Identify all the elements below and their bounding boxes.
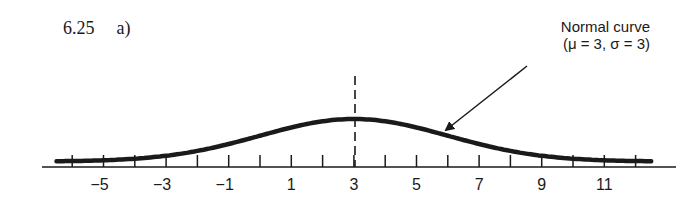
annotation-arrow — [446, 66, 527, 130]
x-tick-label: 1 — [287, 176, 296, 193]
x-tick-label: 9 — [537, 176, 546, 193]
x-tick-label: 11 — [596, 176, 613, 193]
x-tick-label: −1 — [216, 176, 234, 193]
normal-curve — [57, 119, 652, 161]
normal-curve-chart: −5−3−11357911 — [0, 0, 684, 217]
x-tick-label: 7 — [475, 176, 484, 193]
x-tick-label: −5 — [90, 176, 108, 193]
x-tick-label: 5 — [412, 176, 421, 193]
x-axis-tick-labels: −5−3−11357911 — [90, 176, 612, 193]
x-tick-label: −3 — [153, 176, 171, 193]
x-tick-label: 3 — [349, 176, 358, 193]
